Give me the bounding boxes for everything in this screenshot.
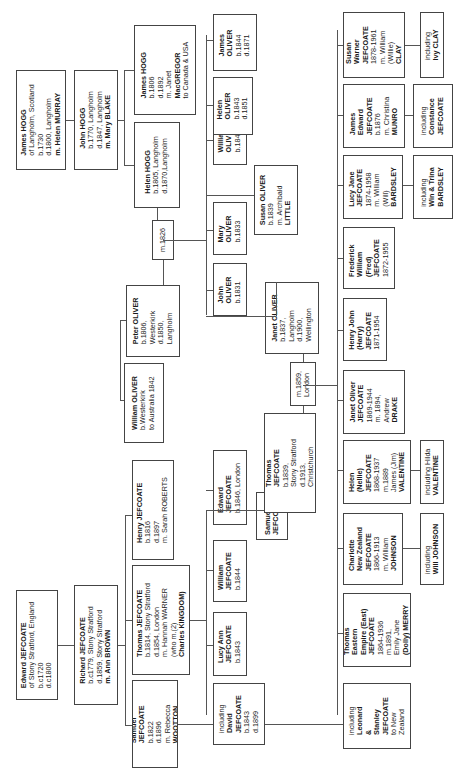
person-box-text: Lucy JaneJEFCOATE1874-1958m. William(Wil…	[348, 167, 398, 207]
person-box-text: John HOGGb.1770, Langholmd.1847, Langhol…	[79, 91, 113, 149]
person-box-james-oliver: JamesOLIVERb.1844d.1871	[213, 14, 257, 71]
person-box-text: JamesOLIVERb.1844d.1871	[218, 29, 252, 56]
person-box-text: includingWin & TrinaBARDSLEY	[420, 167, 445, 207]
person-box-henry-jefcoate-1816: Henry JEFCOATEb.1816d.1897m. Sarah ROBER…	[132, 460, 174, 560]
connector-line	[206, 290, 213, 291]
person-box-text: Richard JEFCOATEb.c1779, Stony Stratford…	[79, 606, 113, 684]
person-box-richard-jefcoate: Richard JEFCOATEb.c1779, Stony Stratford…	[74, 585, 118, 705]
person-box-text: Peter OLIVERb.1806,Westerkirkd.1850,Lang…	[132, 298, 174, 345]
person-box-text: Lucy AnnJEFCOATEb.1843	[217, 625, 242, 663]
connector-line	[178, 724, 213, 725]
person-box-line: London	[303, 371, 311, 397]
person-box-text: WilliamJEFCOATEb.1844	[217, 552, 242, 590]
person-box-henry-john: Henry John(Harry)JEFCOATE1871-1954	[343, 298, 387, 361]
person-box-line: d.1871	[243, 29, 251, 56]
connector-line	[303, 406, 304, 413]
person-box-edward-jefcoate-1846: EdwardJEFCOATEb.1846, London	[213, 450, 247, 525]
person-box-text: includingWill JOHNSON	[424, 524, 441, 574]
person-box-text: JamesEdwardJEFCOATEb.1876m. ChristinaMUN…	[349, 97, 399, 135]
person-box-including-ivy: includingIvy CLAY	[420, 12, 444, 78]
connector-line	[337, 400, 343, 401]
connector-line	[206, 510, 264, 511]
person-box-line: m. Helen MURRAY	[54, 84, 62, 156]
connector-line	[125, 620, 132, 621]
person-box-line: Langholm	[166, 298, 174, 345]
person-box-lucy-ann: Lucy AnnJEFCOATEb.1843	[213, 612, 247, 676]
connector-line	[337, 115, 343, 116]
person-box-including-david: includingDavidJEFCOATEb.1843d.1899	[213, 683, 265, 745]
connector-line	[66, 120, 74, 121]
connector-line	[190, 620, 206, 621]
connector-line	[58, 645, 74, 646]
person-box-line: MUNRO	[391, 97, 399, 135]
person-box-text: Janet OLIVERb.1837,Langholmd.1900,Wellin…	[271, 294, 313, 342]
connector-line	[163, 240, 206, 241]
connector-line	[163, 260, 164, 285]
person-box-line: m. Ann BROWN	[104, 606, 112, 684]
person-box-line: Charles KINGDOM)	[178, 583, 186, 657]
connector-line	[124, 70, 134, 71]
connector-line	[337, 258, 343, 259]
person-box-helen-oliver: HelenOLIVERb.1843d.1851	[213, 77, 253, 135]
person-box-line: JEFCOATE	[437, 97, 445, 135]
person-box-including-will-johnson: includingWill JOHNSON	[420, 513, 444, 585]
connector-line	[206, 105, 213, 106]
connector-line	[206, 195, 254, 196]
connector-line	[337, 30, 338, 715]
connector-line	[403, 548, 420, 549]
person-box-william-jefcoate-1844: WilliamJEFCOATEb.1844	[213, 540, 247, 602]
person-box-line: 1872-1955	[382, 239, 390, 277]
person-box-line: m. Sarah ROBERTS	[161, 477, 169, 543]
connector-line	[206, 40, 213, 41]
person-box-edward-jefcoate: Edward JEFCOATEof Stony Stratford, Engla…	[16, 590, 58, 700]
connector-line	[206, 490, 213, 491]
person-box-line: m. Mary BLAKE	[104, 91, 112, 149]
person-box-line: b.1831	[234, 276, 242, 303]
person-box-line: b.1844	[234, 552, 242, 590]
person-box-text: EdwardJEFCOATEb.1846, London	[217, 463, 242, 513]
person-box-marriage-1859: m.1859,London	[290, 362, 316, 406]
person-box-frederick-william: FrederickWilliam(Fred)JEFCOATE1872-1955	[343, 227, 395, 289]
person-box-janet-oliver: Janet OLIVERb.1837,Langholmd.1900,Wellin…	[265, 282, 319, 354]
person-box-line: Christchurch	[307, 439, 315, 487]
connector-line	[405, 45, 420, 46]
person-box-line: Wellington	[305, 294, 313, 342]
person-box-text: includingConstanceJEFCOATE	[420, 97, 445, 135]
person-box-text: Helen(Nellie)JEFCOATE1868-1937m.1889Jame…	[348, 452, 407, 492]
person-box-text: MaryOLIVERb.1833	[217, 215, 242, 242]
person-box-text: CharlotteNew ZealandJEFCOATE1866-1913m. …	[348, 527, 398, 571]
connector-line	[118, 645, 125, 646]
person-box-line: d.1870,Langholm	[161, 136, 169, 194]
person-box-susan-warner: SusanWarnerJEFCOATE1878-1961m. William(W…	[343, 12, 405, 78]
person-box-lucy-jane: Lucy JaneJEFCOATE1874-1958m. William(Wil…	[343, 155, 403, 219]
person-box-including-win-trina: includingWin & TrinaBARDSLEY	[413, 155, 453, 219]
connector-line	[206, 35, 207, 315]
person-box-john-hogg: John HOGGb.1770, Langholmd.1847, Langhol…	[74, 70, 118, 170]
connector-line	[206, 316, 276, 317]
person-box-including-constance: includingConstanceJEFCOATE	[413, 84, 453, 148]
person-box-line: b.1843	[234, 625, 242, 663]
connector-line	[125, 515, 132, 516]
person-box-susan-oliver: Susan OLIVERb.1839m. ArchibaldLITTLE	[254, 165, 298, 235]
connector-line	[206, 140, 213, 141]
connector-line	[411, 470, 420, 471]
person-box-line: b.1833	[234, 215, 242, 242]
person-box-peter-oliver: Peter OLIVERb.1806,Westerkirkd.1850,Lang…	[126, 285, 180, 357]
person-box-line: VALENTINE	[398, 452, 406, 492]
person-box-samuel-jefcoate-1822: SamuelJEFCOATEb.1822d.1896m. RebeccaWOOT…	[132, 680, 178, 768]
person-box-text: SusanWarnerJEFCOATE1878-1961m. William(W…	[345, 26, 404, 64]
person-box-text: m.1859,London	[295, 371, 312, 397]
person-box-thomas-jefcoate-1814: Thomas JEFCOATEb.1814, Stony Stratfordd.…	[132, 565, 190, 675]
connector-line	[337, 330, 343, 331]
person-box-john-oliver: JohnOLIVERb.1831	[213, 263, 247, 316]
person-box-text: includingIvy CLAY	[424, 30, 441, 61]
person-box-line: (Dolly) MERRY	[402, 605, 410, 655]
connector-line	[120, 320, 121, 400]
person-box-line: d.1851	[241, 93, 249, 120]
person-box-line: LITTLE	[284, 175, 292, 225]
person-box-text: FrederickWilliam(Fred)JEFCOATE1872-1955	[348, 239, 390, 277]
person-box-line: DRAKE	[391, 381, 399, 422]
connector-line	[120, 320, 126, 321]
connector-line	[206, 230, 213, 231]
person-box-thomas-jefcoate-1839: ThomasJEFCOATEb.1839,Stony Stratfordd.19…	[264, 413, 316, 513]
